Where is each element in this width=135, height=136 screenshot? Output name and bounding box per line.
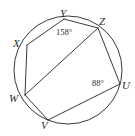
diagonal-WZ — [25, 28, 98, 95]
vertex-label-U: U — [122, 80, 130, 91]
segment-VW — [25, 95, 48, 120]
segment-WX — [25, 45, 27, 95]
segment-UV — [48, 84, 120, 120]
geometry-figure: X Y Z U V W 158° 88° — [0, 0, 135, 136]
vertex-label-Z: Z — [99, 16, 105, 27]
angle-label-158: 158° — [56, 28, 72, 37]
vertex-label-W: W — [9, 93, 18, 104]
segment-ZU — [98, 28, 120, 84]
vertex-label-Y: Y — [60, 8, 66, 19]
angle-label-88: 88° — [92, 79, 104, 88]
vertex-label-V: V — [41, 120, 48, 131]
geometry-canvas — [0, 0, 135, 136]
vertex-label-X: X — [13, 38, 20, 49]
